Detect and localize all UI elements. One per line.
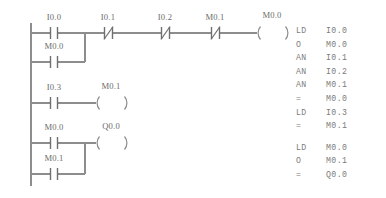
stl-operand: I0.3 (326, 106, 386, 120)
stl-operand: Q0.0 (326, 168, 386, 182)
contact-i0-1-label: I0.1 (101, 12, 115, 22)
stl-operand: M0.1 (326, 154, 386, 168)
contact-m0-0-branch[interactable] (51, 56, 58, 68)
rung-2: I0.3 M0.1 (31, 81, 127, 110)
contact-i0-0-label: I0.0 (47, 12, 61, 22)
stl-operator: = (296, 168, 326, 182)
stl-operand: I0.2 (326, 65, 386, 79)
stl-operator: LD (296, 141, 326, 155)
contact-i0-2[interactable] (161, 27, 170, 40)
stl-operand: M0.0 (326, 141, 386, 155)
stl-operand: M0.1 (326, 78, 386, 92)
stl-operand: M0.0 (326, 92, 386, 106)
coil-q0-0-label: Q0.0 (102, 121, 120, 131)
contact-i0-0[interactable] (51, 27, 58, 39)
stl-line: O M0.1 (296, 154, 386, 168)
stl-operator: AN (296, 65, 326, 79)
stl-operator: LD (296, 106, 326, 120)
contact-m0-0-branch-label: M0.0 (44, 41, 63, 51)
stl-line: AN I0.1 (296, 51, 386, 65)
stl-operator: O (296, 154, 326, 168)
coil-m0-0-label: M0.0 (262, 10, 281, 20)
stl-line: = M0.0 (296, 92, 386, 106)
stl-operator: = (296, 119, 326, 133)
stl-line: LD I0.3 (296, 106, 386, 120)
stl-operator: = (296, 92, 326, 106)
stl-line: LD I0.0 (296, 24, 386, 38)
contact-m0-1-rung3-label: M0.1 (44, 153, 63, 163)
rung-1: I0.0 I0.1 I0.2 (31, 10, 288, 68)
contact-m0-0-rung3-label: M0.0 (44, 122, 63, 132)
stl-operand (326, 133, 386, 141)
stl-operand: I0.0 (326, 24, 386, 38)
contact-i0-2-label: I0.2 (158, 12, 172, 22)
ladder-logic-screenshot: I0.0 I0.1 I0.2 (0, 0, 386, 198)
contact-m0-0-rung3[interactable] (51, 137, 58, 149)
stl-line: AN I0.2 (296, 65, 386, 79)
ladder-diagram: I0.0 I0.1 I0.2 (0, 0, 290, 198)
stl-operator: O (296, 38, 326, 52)
rung-3: M0.0 Q0.0 M0.1 (31, 121, 127, 180)
contact-i0-3-label: I0.3 (47, 82, 61, 92)
stl-operand: M0.0 (326, 38, 386, 52)
stl-operator: AN (296, 51, 326, 65)
stl-line: O M0.0 (296, 38, 386, 52)
contact-i0-1[interactable] (104, 27, 113, 40)
stl-operator: LD (296, 24, 326, 38)
coil-m0-1-label: M0.1 (101, 81, 120, 91)
stl-operator: AN (296, 78, 326, 92)
stl-line: LD M0.0 (296, 141, 386, 155)
stl-operand: I0.1 (326, 51, 386, 65)
stl-line: AN M0.1 (296, 78, 386, 92)
stl-operand: M0.1 (326, 119, 386, 133)
stl-operator (296, 133, 326, 141)
coil-m0-0[interactable] (258, 27, 288, 40)
stl-line: = M0.1 (296, 119, 386, 133)
coil-q0-0[interactable] (97, 137, 127, 150)
coil-m0-1[interactable] (97, 97, 127, 110)
stl-line: = Q0.0 (296, 168, 386, 182)
statement-list: LD I0.0 O M0.0 AN I0.1 AN I0.2 AN M0.1 =… (296, 24, 386, 182)
contact-i0-3[interactable] (51, 97, 58, 109)
stl-blank-line (296, 133, 386, 141)
contact-m0-1-rung1-label: M0.1 (205, 12, 224, 22)
contact-m0-1-rung3[interactable] (51, 168, 58, 180)
contact-m0-1-rung1[interactable] (211, 27, 220, 40)
